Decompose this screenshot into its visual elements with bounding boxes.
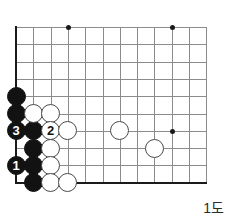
grid-line-vertical: [137, 27, 138, 183]
stone-white[interactable]: [41, 173, 60, 192]
stone-white[interactable]: [41, 156, 60, 175]
grid-line-vertical: [85, 27, 86, 183]
move-number: 1: [8, 157, 25, 175]
grid-line-vertical: [103, 27, 104, 183]
star-point: [170, 25, 175, 30]
stone-black-move-3[interactable]: 3: [7, 121, 26, 140]
stone-black[interactable]: [7, 87, 26, 106]
star-point: [170, 129, 175, 134]
stone-black-move-1[interactable]: 1: [7, 156, 26, 175]
go-diagram-figure: 312 1도: [0, 0, 231, 219]
stone-white[interactable]: [41, 139, 60, 158]
stone-white[interactable]: [58, 121, 77, 140]
stone-black[interactable]: [24, 173, 43, 192]
grid-line-vertical: [172, 27, 173, 183]
grid-line-vertical: [154, 27, 155, 183]
stone-black[interactable]: [7, 104, 26, 123]
go-board[interactable]: 312: [0, 0, 231, 195]
grid-line-horizontal: [16, 96, 206, 97]
grid-line-vertical: [68, 27, 69, 183]
grid-line-horizontal: [16, 62, 206, 63]
stone-white[interactable]: [145, 139, 164, 158]
stone-white[interactable]: [41, 104, 60, 123]
stone-white[interactable]: [110, 121, 129, 140]
grid-line-horizontal: [16, 44, 206, 45]
stone-black[interactable]: [24, 121, 43, 140]
move-number: 3: [8, 122, 25, 140]
grid-line-horizontal: [16, 79, 206, 80]
figure-caption: 1도: [203, 197, 225, 217]
stone-white[interactable]: [58, 173, 77, 192]
grid-line-vertical: [120, 27, 121, 183]
stone-black[interactable]: [24, 156, 43, 175]
stone-black[interactable]: [24, 139, 43, 158]
move-number: 2: [42, 122, 59, 140]
grid-line-vertical: [206, 27, 207, 183]
grid-line-vertical: [189, 27, 190, 183]
grid-line-horizontal: [16, 27, 206, 28]
stone-white[interactable]: [24, 104, 43, 123]
star-point: [66, 25, 71, 30]
stone-white-move-2[interactable]: 2: [41, 121, 60, 140]
